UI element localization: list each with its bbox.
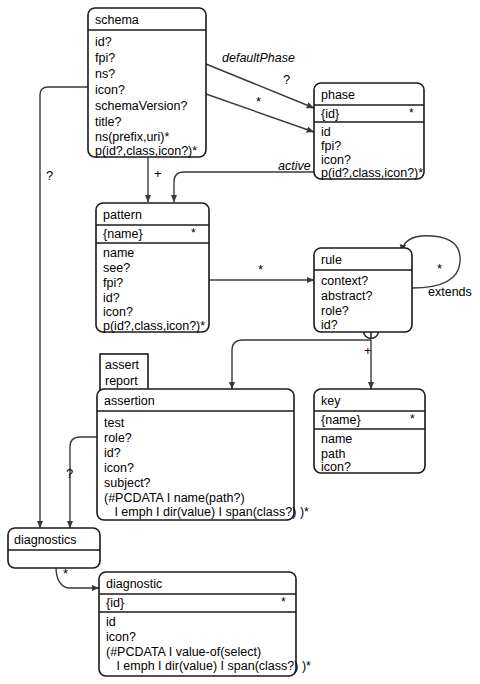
attr-phase-3: p(id?,class,icon?)* bbox=[321, 166, 423, 180]
edge-label-extends: extends bbox=[428, 285, 472, 299]
edge-assertion-diagnostics: ? bbox=[66, 437, 100, 528]
attr-pattern-5: p(id?,class,icon?)* bbox=[103, 319, 205, 333]
attr-assertion-4: subject? bbox=[104, 476, 151, 490]
attr-rule-3: id? bbox=[321, 318, 338, 332]
entity-key[interactable]: key {name} * name path icon? bbox=[314, 389, 425, 474]
attr-key-2: icon? bbox=[321, 460, 351, 474]
entity-title-schema: schema bbox=[95, 13, 139, 27]
attr-assertion-3: icon? bbox=[104, 461, 134, 475]
attr-diagnostic-1: icon? bbox=[106, 630, 136, 644]
tag-line-assert: assert bbox=[105, 358, 140, 372]
attr-diagnostic-0: id bbox=[106, 615, 116, 629]
attr-pattern-3: id? bbox=[103, 291, 120, 305]
edge-mult-defaultphase: ? bbox=[283, 72, 290, 87]
edge-label-defaultphase: defaultPhase bbox=[222, 51, 295, 65]
edge-schema-diagnostics: ? bbox=[40, 87, 88, 528]
entity-title-diagnostics: diagnostics bbox=[14, 533, 77, 547]
edge-diagnostics-diagnostic: * bbox=[56, 566, 99, 588]
entity-title-pattern: pattern bbox=[103, 208, 142, 222]
edge-mult-extends: * bbox=[437, 261, 442, 276]
entity-phase[interactable]: phase {id} * id fpi? icon? p(id?,class,i… bbox=[314, 83, 424, 180]
entity-diagnostic[interactable]: diagnostic {id} * id icon? (#PCDATA I va… bbox=[99, 572, 311, 676]
tag-line-report: report bbox=[105, 374, 138, 388]
attr-rule-2: role? bbox=[321, 304, 349, 318]
attr-phase-2: icon? bbox=[321, 153, 351, 167]
edge-schema-pattern: + bbox=[148, 157, 162, 202]
edge-mult-assertion-diagnostics: ? bbox=[66, 466, 73, 481]
edge-phase-active-pattern: active bbox=[174, 159, 314, 202]
attr-assertion-5: (#PCDATA I name(path?) bbox=[104, 491, 245, 505]
attr-schema-2: ns? bbox=[95, 67, 115, 81]
attr-assertion-0: test bbox=[104, 416, 125, 430]
attr-assertion-1: role? bbox=[104, 431, 132, 445]
attr-key-1: path bbox=[321, 447, 345, 461]
er-diagram: ? ? defaultPhase ? * active + * extends … bbox=[0, 0, 480, 684]
entity-key-star-phase: * bbox=[409, 106, 414, 120]
entity-assertion[interactable]: assertion test role? id? icon? subject? … bbox=[97, 389, 309, 520]
attr-schema-4: schemaVersion? bbox=[95, 99, 187, 113]
edge-mult-schema-phase: * bbox=[256, 94, 261, 109]
attr-schema-6: ns(prefix,uri)* bbox=[95, 130, 169, 144]
edge-schema-phase: * bbox=[206, 94, 314, 132]
edge-pattern-rule: * bbox=[209, 262, 314, 280]
attr-pattern-1: see? bbox=[103, 261, 130, 275]
attr-schema-1: fpi? bbox=[95, 51, 115, 65]
attr-schema-5: title? bbox=[95, 115, 121, 129]
entity-title-diagnostic: diagnostic bbox=[106, 577, 162, 591]
entity-key-star-diagnostic: * bbox=[281, 595, 286, 609]
attr-key-0: name bbox=[321, 432, 352, 446]
attr-phase-1: fpi? bbox=[321, 139, 341, 153]
entity-schema[interactable]: schema id? fpi? ns? icon? schemaVersion?… bbox=[88, 8, 206, 158]
attr-assertion-2: id? bbox=[104, 446, 121, 460]
entity-key-star-key: * bbox=[410, 412, 415, 426]
entity-title-key: key bbox=[321, 394, 341, 408]
entity-title-rule: rule bbox=[321, 253, 342, 267]
attr-rule-0: context? bbox=[321, 274, 368, 288]
entity-diagnostics[interactable]: diagnostics bbox=[8, 528, 100, 568]
attr-phase-0: id bbox=[321, 125, 331, 139]
edge-rule-assertion: + bbox=[232, 340, 372, 389]
edge-mult-pattern-rule: * bbox=[258, 262, 263, 277]
attr-pattern-4: icon? bbox=[103, 305, 133, 319]
edge-label-active: active bbox=[278, 159, 311, 173]
entity-title-assertion: assertion bbox=[104, 394, 155, 408]
attr-pattern-2: fpi? bbox=[103, 276, 123, 290]
tag-box-assert-report[interactable]: assert report bbox=[100, 354, 148, 392]
attr-diagnostic-2: (#PCDATA I value-of(select) bbox=[106, 645, 261, 659]
entity-title-phase: phase bbox=[321, 88, 355, 102]
entity-key-phase: {id} bbox=[321, 107, 339, 121]
entity-key-diagnostic: {id} bbox=[106, 596, 124, 610]
attr-assertion-6: I emph I dir(value) I span(class?) )* bbox=[104, 505, 309, 519]
diagram-canvas: ? ? defaultPhase ? * active + * extends … bbox=[0, 0, 480, 684]
attr-pattern-0: name bbox=[103, 246, 134, 260]
entity-pattern[interactable]: pattern {name} * name see? fpi? id? icon… bbox=[96, 203, 209, 333]
entity-rule[interactable]: rule context? abstract? role? id? bbox=[314, 248, 412, 332]
attr-schema-3: icon? bbox=[95, 83, 125, 97]
entity-key-star-pattern: * bbox=[191, 226, 196, 240]
attr-rule-1: abstract? bbox=[321, 289, 372, 303]
attr-diagnostic-3: I emph I dir(value) I span(class?) )* bbox=[106, 659, 311, 673]
entity-key-key: {name} bbox=[321, 413, 361, 427]
attr-schema-7: p(id?,class,icon?)* bbox=[95, 144, 197, 158]
edge-mult-schema-pattern: + bbox=[154, 166, 162, 181]
edge-mult-schema-diagnostics: ? bbox=[46, 168, 53, 183]
attr-schema-0: id? bbox=[95, 35, 112, 49]
entity-key-pattern: {name} bbox=[103, 227, 143, 241]
